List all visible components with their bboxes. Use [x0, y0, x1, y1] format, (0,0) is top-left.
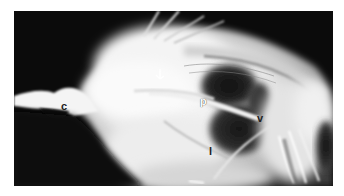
label-proventriculus: p	[200, 96, 207, 107]
arrowhead-icon	[155, 69, 165, 81]
figure-container: c p v l	[0, 0, 344, 196]
radiograph-image: c p v l	[14, 11, 333, 186]
label-v: v	[257, 113, 263, 124]
radiograph-drawing	[14, 11, 333, 186]
label-crop: c	[61, 101, 67, 112]
label-liver: l	[209, 146, 212, 157]
